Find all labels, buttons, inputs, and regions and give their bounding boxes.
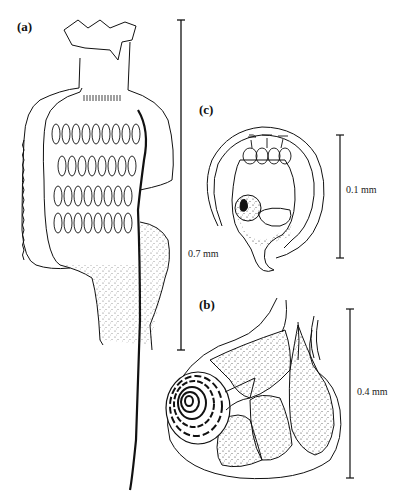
- scale-label-a: 0.7 mm: [188, 248, 219, 259]
- panel-label-b: (b): [199, 297, 215, 313]
- panel-a-drawing: [22, 20, 173, 490]
- panel-b-drawing: [166, 298, 341, 479]
- statoblast-ovals: [52, 124, 140, 233]
- scale-bar-b: [346, 309, 354, 478]
- scale-label-c: 0.1 mm: [346, 184, 377, 195]
- scale-label-b: 0.4 mm: [357, 386, 388, 397]
- scale-bar-c: [336, 135, 344, 258]
- panel-label-c: (c): [199, 102, 213, 118]
- panel-c-drawing: [207, 127, 324, 271]
- scale-bar-a: [177, 20, 185, 350]
- coil: [166, 372, 230, 444]
- panel-label-a: (a): [17, 19, 32, 35]
